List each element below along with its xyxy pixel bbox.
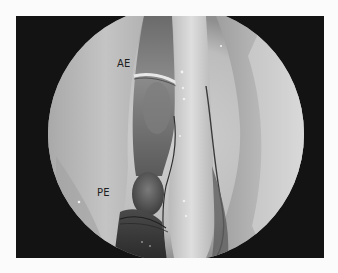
endoscope-frame: AE PE xyxy=(16,16,324,258)
label-pe: PE xyxy=(97,188,110,198)
label-ae: AE xyxy=(117,59,131,69)
endoscopic-image xyxy=(16,16,324,258)
